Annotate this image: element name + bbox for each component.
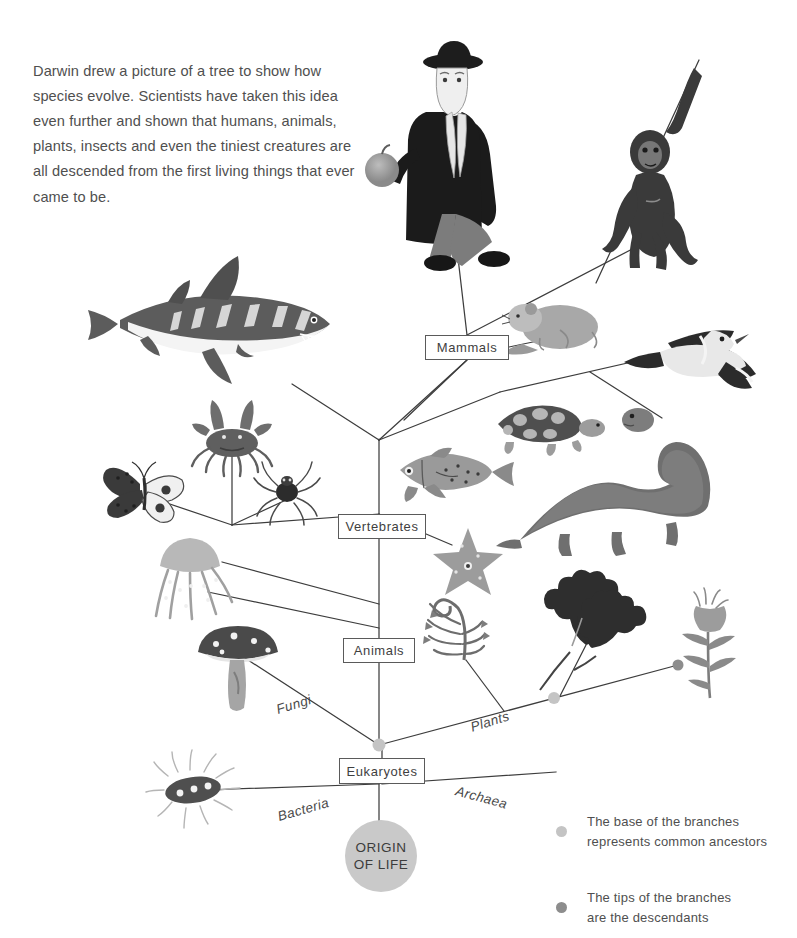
node-label-vertebrates[interactable]: Vertebrates	[338, 514, 426, 539]
legend-tip-line-2: are the descendants	[587, 908, 731, 928]
legend-text-base: The base of the branches represents comm…	[587, 812, 767, 852]
base-node-dot	[548, 692, 560, 704]
turtle	[498, 405, 605, 456]
legend: The base of the branches represents comm…	[556, 812, 786, 938]
mushroom	[198, 626, 278, 711]
bacterium	[146, 750, 240, 828]
node-label-animals[interactable]: Animals	[343, 638, 415, 663]
butterfly	[103, 462, 184, 522]
node-label-mammals[interactable]: Mammals	[425, 335, 509, 360]
legend-base-line-1: The base of the branches	[587, 812, 767, 832]
base-node-dot-icon	[556, 826, 567, 837]
base-node-dot	[373, 739, 386, 752]
darwin-figure	[365, 41, 510, 271]
chimpanzee	[602, 68, 702, 270]
shark	[88, 256, 330, 384]
legend-item-base: The base of the branches represents comm…	[556, 812, 786, 852]
fish	[400, 448, 514, 502]
fern	[423, 600, 490, 660]
spider	[254, 462, 320, 525]
legend-tip-line-1: The tips of the branches	[587, 888, 731, 908]
origin-of-life-node[interactable]: ORIGIN OF LIFE	[345, 820, 417, 892]
node-label-eukaryotes[interactable]: Eukaryotes	[339, 758, 425, 784]
origin-line-1: ORIGIN	[355, 839, 406, 856]
tree-of-life-diagram: Darwin drew a picture of a tree to show …	[0, 0, 797, 938]
origin-line-2: OF LIFE	[354, 856, 409, 873]
tip-node-dot-icon	[556, 902, 567, 913]
oak-leaves	[540, 570, 646, 690]
intro-paragraph: Darwin drew a picture of a tree to show …	[33, 59, 363, 210]
jellyfish	[156, 538, 232, 619]
mouse	[502, 303, 598, 355]
legend-item-tip: The tips of the branches are the descend…	[556, 888, 786, 928]
legend-base-line-2: represents common ancestors	[587, 832, 767, 852]
starfish	[433, 528, 503, 595]
flower	[682, 588, 736, 698]
tip-node-dot	[673, 660, 684, 671]
legend-text-tip: The tips of the branches are the descend…	[587, 888, 731, 928]
bird	[624, 330, 756, 389]
